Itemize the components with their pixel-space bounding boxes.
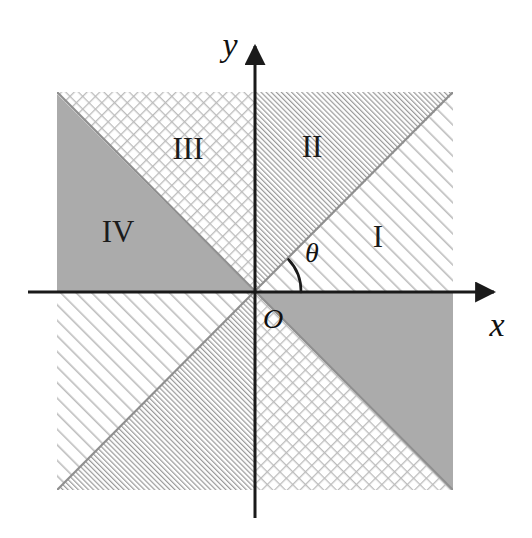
origin-label: O [263, 303, 283, 334]
region-4-label: IV [102, 214, 135, 249]
figure-root: I II III IV θ O y x [0, 0, 532, 538]
region-3-label: III [173, 131, 204, 166]
octant-diagram: I II III IV θ O y x [0, 0, 532, 538]
y-axis-label: y [219, 26, 238, 63]
x-axis-label: x [488, 306, 504, 343]
region-2-label: II [302, 129, 323, 164]
region-1-label: I [373, 219, 383, 254]
theta-label: θ [305, 237, 319, 268]
